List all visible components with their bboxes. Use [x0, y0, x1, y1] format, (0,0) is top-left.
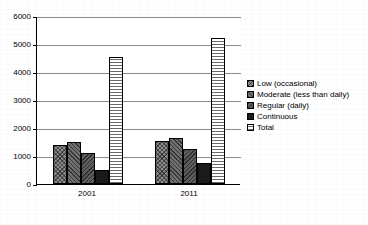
bar — [211, 38, 225, 184]
bar — [183, 149, 197, 184]
legend-item-label: Continuous — [257, 113, 297, 121]
bar — [169, 138, 183, 184]
legend-item[interactable]: Continuous — [247, 111, 365, 122]
legend-item-label: Total — [257, 124, 274, 132]
bars-layer — [37, 17, 240, 184]
plot-area: 0100020003000400050006000 — [36, 17, 240, 185]
legend-swatch-icon — [247, 124, 254, 131]
legend-swatch-icon — [247, 102, 254, 109]
y-axis-label: 0 — [27, 181, 31, 189]
legend-swatch-icon — [247, 113, 254, 120]
y-axis-label: 3000 — [13, 97, 31, 105]
y-axis-label: 5000 — [13, 41, 31, 49]
legend-item-label: Regular (daily) — [257, 102, 309, 110]
y-axis-tick — [33, 185, 37, 186]
legend-item[interactable]: Low (occasional) — [247, 78, 365, 89]
bar-chart: 0100020003000400050006000 20012011 Low (… — [0, 0, 368, 225]
legend-item-label: Low (occasional) — [257, 80, 317, 88]
y-axis-label: 2000 — [13, 125, 31, 133]
bar — [197, 163, 211, 184]
legend-item[interactable]: Total — [247, 122, 365, 133]
legend-item-label: Moderate (less than daily) — [257, 91, 349, 99]
bar — [81, 153, 95, 184]
x-axis-label: 2011 — [180, 190, 197, 198]
bar — [155, 141, 169, 184]
y-axis-label: 6000 — [13, 13, 31, 21]
bar — [95, 170, 109, 184]
bar — [53, 145, 67, 184]
legend-swatch-icon — [247, 91, 254, 98]
y-axis-label: 4000 — [13, 69, 31, 77]
x-axis-label: 2001 — [78, 190, 96, 198]
chart-legend: Low (occasional)Moderate (less than dail… — [247, 76, 365, 135]
bar — [67, 142, 81, 184]
legend-swatch-icon — [247, 80, 254, 87]
bar — [109, 57, 123, 184]
legend-item[interactable]: Moderate (less than daily) — [247, 89, 365, 100]
y-axis-label: 1000 — [13, 153, 31, 161]
legend-item[interactable]: Regular (daily) — [247, 100, 365, 111]
